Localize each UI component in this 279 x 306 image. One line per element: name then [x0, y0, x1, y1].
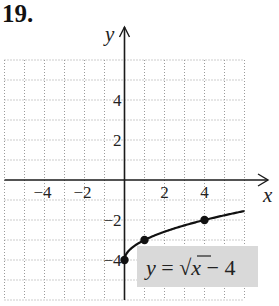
y-tick-label: −2 [103, 211, 121, 230]
x-tick-label: 2 [160, 183, 169, 202]
equation-part: √ [179, 255, 192, 280]
data-point [120, 256, 128, 264]
equation-label: y = √x − 4 [137, 246, 258, 287]
data-point [140, 236, 148, 244]
equation-part: − 4 [201, 255, 235, 280]
y-tick-label: −4 [103, 251, 122, 270]
x-axis-label: x [262, 183, 273, 207]
x-tick-label: −4 [33, 183, 52, 202]
y-tick-label: 2 [113, 131, 122, 150]
data-point [200, 216, 208, 224]
y-tick-label: 4 [113, 91, 122, 110]
equation-part: y [144, 255, 156, 280]
equation-label-text: y = √x − 4 [144, 255, 235, 280]
graph: xy −4−22442−2−4 y = √x − 4 [0, 0, 279, 306]
equation-part: = [156, 255, 179, 280]
x-tick-label: −2 [73, 183, 91, 202]
y-axis-label: y [103, 22, 115, 46]
equation-part: x [190, 255, 201, 280]
x-tick-label: 4 [200, 183, 209, 202]
